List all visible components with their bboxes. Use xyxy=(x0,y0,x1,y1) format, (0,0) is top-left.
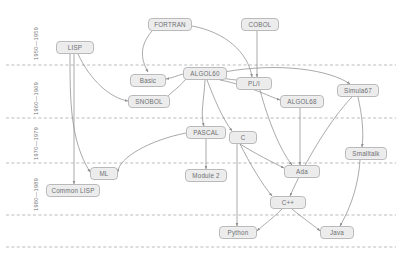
node-label: ALGOL60 xyxy=(190,70,219,77)
edge-cpp-to-java xyxy=(292,209,320,231)
era-label-0: 1950—1959 xyxy=(33,27,39,60)
node-smalltalk[interactable]: Smalltalk xyxy=(345,147,387,160)
node-fortran[interactable]: FORTRAN xyxy=(148,18,192,31)
node-module2[interactable]: Module 2 xyxy=(185,169,227,182)
edge-smalltalk-to-java xyxy=(340,160,360,226)
node-simula67[interactable]: Simula67 xyxy=(337,84,379,97)
edge-lisp-to-ml xyxy=(70,54,90,172)
edge-simula67-to-smalltalk xyxy=(358,97,363,147)
node-label: Java xyxy=(330,229,344,236)
node-python[interactable]: Python xyxy=(219,226,257,239)
node-label: PASCAL xyxy=(193,129,219,136)
node-label: ML xyxy=(99,170,108,177)
node-label: COBOL xyxy=(248,21,271,28)
node-algol68[interactable]: ALGOL68 xyxy=(280,95,324,108)
edge-c-to-ada xyxy=(240,144,284,168)
edge-algol60-to-c xyxy=(207,80,232,131)
node-cobol[interactable]: COBOL xyxy=(241,18,279,31)
node-ada[interactable]: Ada xyxy=(284,165,320,178)
node-algol60[interactable]: ALGOL60 xyxy=(183,67,227,80)
node-label: Common LISP xyxy=(51,187,94,194)
edge-pascal-to-ml xyxy=(118,133,186,172)
node-label: C xyxy=(241,134,246,141)
era-label-1: 1960—1969 xyxy=(33,82,39,115)
edge-algol60-to-basic xyxy=(166,74,183,79)
node-label: PL/I xyxy=(248,80,260,87)
node-lisp[interactable]: LISP xyxy=(56,41,94,54)
edge-lisp-to-snobol xyxy=(78,54,128,101)
node-label: Basic xyxy=(140,77,156,84)
node-pascal[interactable]: PASCAL xyxy=(186,126,226,139)
node-label: Smalltalk xyxy=(352,150,379,157)
edge-cpp-to-python xyxy=(257,209,282,231)
node-basic[interactable]: Basic xyxy=(130,74,166,87)
node-ml[interactable]: ML xyxy=(90,167,118,180)
node-label: LISP xyxy=(68,44,82,51)
node-pli[interactable]: PL/I xyxy=(236,77,272,90)
node-cpp[interactable]: C++ xyxy=(270,196,306,209)
node-java[interactable]: Java xyxy=(320,226,354,239)
edge-algol60-to-pascal xyxy=(202,80,205,126)
node-label: SNOBOL xyxy=(135,98,162,105)
node-label: ALGOL68 xyxy=(287,98,316,105)
node-label: Module 2 xyxy=(192,172,220,179)
node-label: Simula67 xyxy=(344,87,372,94)
era-label-3: 1980—1989 xyxy=(33,178,39,211)
node-label: Ada xyxy=(296,168,308,175)
edge-c-to-cpp xyxy=(240,144,272,196)
node-snobol[interactable]: SNOBOL xyxy=(128,95,170,108)
node-label: Python xyxy=(228,229,249,236)
node-label: C++ xyxy=(282,199,295,206)
diagram-canvas: 1950—19591960—19691970—19791980—1989 LIS… xyxy=(0,0,401,257)
era-label-2: 1970—1979 xyxy=(33,127,39,160)
node-c[interactable]: C xyxy=(229,131,257,144)
edge-simula67-to-cpp xyxy=(290,97,352,196)
node-commonlisp[interactable]: Common LISP xyxy=(46,184,100,197)
edge-fortran-to-algol60 xyxy=(142,31,152,72)
node-label: FORTRAN xyxy=(154,21,186,28)
